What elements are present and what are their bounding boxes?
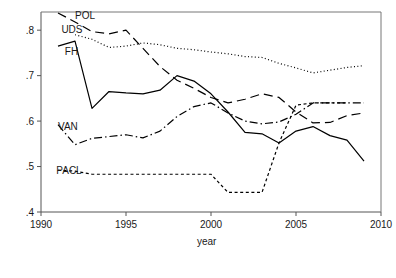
- x-tick-label: 1995: [115, 219, 138, 230]
- y-tick-label: .7: [26, 70, 35, 81]
- y-tick-label: .8: [26, 25, 35, 36]
- data-series-layer: [58, 13, 364, 193]
- series-line-fh: [58, 41, 364, 161]
- series-label-fh: FH: [65, 46, 78, 57]
- series-line-uds: [75, 35, 364, 73]
- series-label-pol: POL: [75, 10, 95, 21]
- x-tick-label: 1990: [30, 219, 53, 230]
- tick-marks: [37, 30, 381, 216]
- y-tick-label: .6: [26, 116, 35, 127]
- x-tick-label: 2005: [285, 219, 308, 230]
- x-tick-label: 2000: [200, 219, 223, 230]
- series-label-pacl: PACL: [56, 165, 82, 176]
- tick-labels: .4.5.6.7.819901995200020052010: [26, 25, 393, 230]
- x-axis-title: year: [197, 236, 216, 247]
- series-label-uds: UDS: [61, 24, 82, 35]
- series-line-van: [58, 103, 364, 145]
- x-tick-label: 2010: [370, 219, 393, 230]
- axes: [41, 12, 381, 212]
- y-tick-label: .5: [26, 161, 35, 172]
- series-labels-layer: POLUDSFHVANPACL: [56, 10, 95, 176]
- series-line-pol: [58, 13, 364, 123]
- y-tick-label: .4: [26, 207, 35, 218]
- chart-container: .4.5.6.7.819901995200020052010 POLUDSFHV…: [0, 0, 396, 278]
- series-label-van: VAN: [58, 121, 78, 132]
